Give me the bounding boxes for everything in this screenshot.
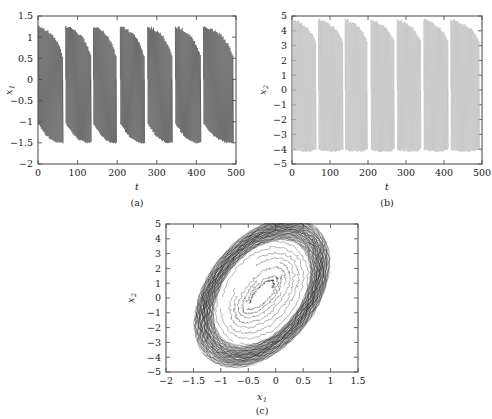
svg-text:−4: −4 <box>147 352 161 363</box>
svg-text:−1.5: −1.5 <box>182 375 205 386</box>
panel-c: −2−1.5−1−0.500.511.5−5−4−3−2−1012345x1x2… <box>120 210 380 419</box>
svg-text:t: t <box>385 181 389 192</box>
svg-text:0: 0 <box>289 167 295 178</box>
svg-text:1: 1 <box>328 375 334 386</box>
panel-a-plot: 0100200300400500−2−1.5−1−0.500.511.5tx1(… <box>0 0 250 210</box>
svg-text:−0.5: −0.5 <box>237 375 260 386</box>
svg-text:x1: x1 <box>3 85 16 95</box>
svg-text:200: 200 <box>108 167 126 178</box>
svg-text:1: 1 <box>27 32 33 43</box>
svg-text:2: 2 <box>281 55 287 66</box>
svg-text:−3: −3 <box>273 129 287 140</box>
svg-text:500: 500 <box>473 167 491 178</box>
svg-text:0.5: 0.5 <box>296 375 311 386</box>
svg-text:400: 400 <box>187 167 205 178</box>
svg-text:x1: x1 <box>257 391 267 404</box>
panel-b-plot: 0100200300400500−5−4−3−2−1012345tx2(b) <box>250 0 492 210</box>
svg-text:−1.5: −1.5 <box>10 137 33 148</box>
svg-text:200: 200 <box>359 167 377 178</box>
svg-text:300: 300 <box>397 167 415 178</box>
panel-b: 0100200300400500−5−4−3−2−1012345tx2(b) <box>250 0 492 210</box>
svg-text:−1: −1 <box>214 375 228 386</box>
svg-text:300: 300 <box>148 167 166 178</box>
svg-text:x2: x2 <box>257 85 270 95</box>
figure-three-panel: 0100200300400500−2−1.5−1−0.500.511.5tx1(… <box>0 0 492 419</box>
svg-text:0.5: 0.5 <box>18 53 33 64</box>
svg-text:(b): (b) <box>380 197 394 208</box>
svg-text:−1: −1 <box>19 116 33 127</box>
svg-text:5: 5 <box>281 10 287 21</box>
svg-text:−5: −5 <box>147 366 161 377</box>
svg-text:4: 4 <box>155 233 161 244</box>
svg-text:500: 500 <box>227 167 245 178</box>
svg-text:1.5: 1.5 <box>18 10 33 21</box>
svg-text:x2: x2 <box>125 293 138 303</box>
panel-c-plot: −2−1.5−1−0.500.511.5−5−4−3−2−1012345x1x2… <box>120 210 380 419</box>
svg-text:0: 0 <box>35 167 41 178</box>
svg-text:−2: −2 <box>273 114 287 125</box>
svg-text:−2: −2 <box>19 158 33 169</box>
svg-text:−3: −3 <box>147 337 161 348</box>
svg-text:100: 100 <box>69 167 87 178</box>
svg-text:2: 2 <box>155 263 161 274</box>
svg-text:100: 100 <box>321 167 339 178</box>
svg-text:−4: −4 <box>273 144 287 155</box>
svg-text:1.5: 1.5 <box>350 375 365 386</box>
svg-text:−1: −1 <box>147 307 161 318</box>
svg-text:−5: −5 <box>273 158 287 169</box>
svg-text:−1: −1 <box>273 99 287 110</box>
svg-text:−2: −2 <box>147 322 161 333</box>
svg-text:5: 5 <box>155 218 161 229</box>
svg-text:0: 0 <box>273 375 279 386</box>
svg-text:4: 4 <box>281 25 287 36</box>
svg-text:3: 3 <box>281 40 287 51</box>
svg-text:t: t <box>135 181 139 192</box>
svg-text:(a): (a) <box>130 197 143 208</box>
svg-text:0: 0 <box>27 74 33 85</box>
svg-text:0: 0 <box>155 292 161 303</box>
panel-a: 0100200300400500−2−1.5−1−0.500.511.5tx1(… <box>0 0 250 210</box>
svg-text:1: 1 <box>281 70 287 81</box>
svg-text:(c): (c) <box>256 405 269 416</box>
svg-text:0: 0 <box>281 84 287 95</box>
svg-text:−2: −2 <box>159 375 173 386</box>
svg-text:−0.5: −0.5 <box>10 95 33 106</box>
svg-text:1: 1 <box>155 278 161 289</box>
svg-text:3: 3 <box>155 248 161 259</box>
svg-text:400: 400 <box>435 167 453 178</box>
